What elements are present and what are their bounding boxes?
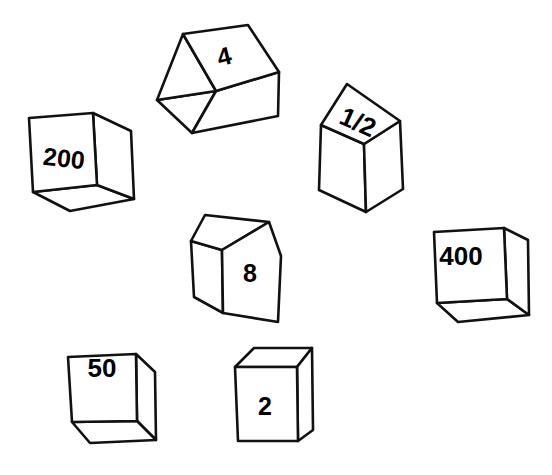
cube-2-label: 2 bbox=[258, 392, 272, 420]
cube-2[interactable]: 2 bbox=[235, 348, 313, 441]
cube-400-label: 400 bbox=[439, 241, 482, 271]
cubes-canvas: 200 4 1/2 8 400 bbox=[0, 0, 552, 475]
cube-200[interactable]: 200 bbox=[29, 113, 134, 211]
cube-200-label: 200 bbox=[42, 142, 86, 174]
cube-400[interactable]: 400 bbox=[434, 228, 529, 322]
cube-50-label: 50 bbox=[88, 353, 117, 383]
cube-50[interactable]: 50 bbox=[68, 353, 156, 443]
cube-2-right-face bbox=[297, 348, 313, 441]
cube-8-label: 8 bbox=[243, 259, 257, 287]
cubes-illustration: 200 4 1/2 8 400 bbox=[0, 0, 552, 475]
